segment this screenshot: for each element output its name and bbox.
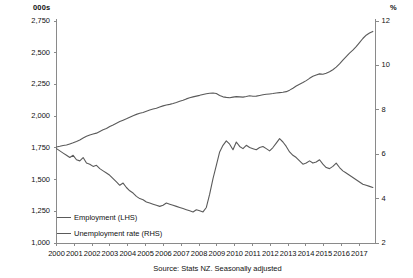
x-axis-tick-label: 2005 xyxy=(137,249,154,258)
right-axis-tick-label: 8 xyxy=(382,105,386,114)
legend-item-employment: Employment (LHS) xyxy=(57,213,137,222)
series-line-employment xyxy=(57,31,373,147)
x-axis-tick-label: 2009 xyxy=(209,249,226,258)
x-axis-tick-label: 2012 xyxy=(262,249,279,258)
x-axis-tick-label: 2008 xyxy=(191,249,208,258)
left-axis-tick-label: 2,500 xyxy=(0,48,50,57)
legend-label-unemployment: Unemployment rate (RHS) xyxy=(74,229,162,238)
x-axis-tick-label: 2011 xyxy=(244,249,260,258)
right-axis-tick-label: 12 xyxy=(382,16,390,25)
x-axis-tick-label: 2013 xyxy=(280,249,297,258)
left-axis-tick-label: 2,750 xyxy=(0,16,50,25)
series-line-unemployment xyxy=(57,139,373,212)
x-axis-tick-label: 2014 xyxy=(298,249,315,258)
chart-container: 000s % 1,0001,2501,5001,7502,0002,2502,5… xyxy=(0,0,413,278)
right-axis-tick-label: 6 xyxy=(382,149,386,158)
x-axis-tick-label: 2000 xyxy=(48,249,65,258)
x-axis-tick-label: 2001 xyxy=(66,249,83,258)
right-axis-tick-label: 10 xyxy=(382,60,390,69)
x-axis-tick-label: 2003 xyxy=(102,249,119,258)
left-axis-tick-label: 1,000 xyxy=(0,238,50,247)
legend-label-employment: Employment (LHS) xyxy=(74,213,137,222)
right-axis-tick-label: 4 xyxy=(382,194,386,203)
left-axis-tick-label: 1,250 xyxy=(0,206,50,215)
source-note: Source: Stats NZ. Seasonally adjusted xyxy=(0,264,413,273)
x-axis-tick-label: 2010 xyxy=(226,249,243,258)
x-axis-tick-label: 2016 xyxy=(333,249,350,258)
left-axis-tick-label: 2,250 xyxy=(0,79,50,88)
left-axis-tick-label: 1,750 xyxy=(0,143,50,152)
legend-line-swatch-unemployment xyxy=(57,233,71,234)
x-axis-tick-label: 2017 xyxy=(351,249,368,258)
left-axis-tick-label: 1,500 xyxy=(0,175,50,184)
right-axis-tick-label: 2 xyxy=(382,238,386,247)
x-axis-tick-label: 2002 xyxy=(84,249,101,258)
x-axis-tick-label: 2007 xyxy=(173,249,190,258)
left-axis-tick-label: 2,000 xyxy=(0,111,50,120)
x-axis-tick-label: 2006 xyxy=(155,249,172,258)
x-axis-tick-label: 2015 xyxy=(315,249,332,258)
legend-item-unemployment: Unemployment rate (RHS) xyxy=(57,229,162,238)
x-axis-tick-label: 2004 xyxy=(119,249,136,258)
legend-line-swatch-employment xyxy=(57,217,71,218)
